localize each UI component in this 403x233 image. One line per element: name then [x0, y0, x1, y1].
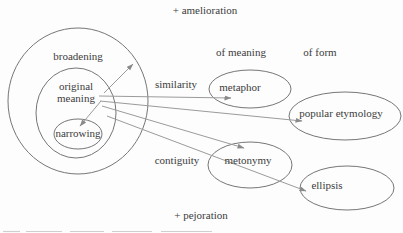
broadening-label: broadening: [53, 50, 103, 62]
similarity-label: similarity: [155, 78, 198, 90]
contiguity-metonymy-arrow: [102, 106, 244, 148]
contiguity-label: contiguity: [155, 154, 200, 166]
broadening-arrow: [104, 64, 133, 93]
ellipsis-label: ellipsis: [311, 179, 342, 191]
metaphor-label: metaphor: [219, 81, 261, 93]
pejoration-label: + pejoration: [174, 209, 228, 221]
narrowing-label: narrowing: [55, 127, 101, 139]
metonymy-label: metonymy: [224, 154, 272, 166]
popular-etymology-arrow: [100, 101, 302, 121]
of-form-header: of form: [303, 46, 337, 58]
popular-etymology-label: popular etymology: [299, 107, 383, 119]
original-meaning-label-line1: original: [59, 80, 93, 92]
ellipsis-arrow: [107, 116, 306, 191]
similarity-metaphor-arrow: [99, 96, 231, 98]
narrowing-arrow: [80, 101, 101, 126]
original-meaning-label-line2: meaning: [57, 92, 95, 104]
diagram-canvas: + amelioration + pejoration broadening o…: [0, 0, 403, 233]
semantic-change-diagram: + amelioration + pejoration broadening o…: [0, 0, 403, 233]
of-meaning-header: of meaning: [216, 46, 266, 58]
amelioration-label: + amelioration: [173, 4, 238, 16]
